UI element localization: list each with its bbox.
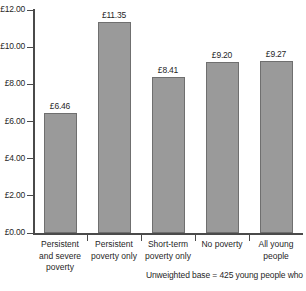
category-label-line: All young [249,239,303,251]
x-axis-line [33,233,303,235]
x-axis-category-label: Persistentpoverty only [87,239,141,262]
category-label-line: and severe [33,251,87,263]
bar-value-label: £6.46 [30,102,90,111]
bar-chart-figure: £0.00£2.00£4.00£6.00£8.00£10.00£12.00 £6… [0,0,306,291]
category-label-line: poverty only [141,251,195,263]
y-axis-tick-label: £12.00 [0,5,25,14]
bar-value-label: £9.27 [246,50,306,59]
category-label-line: Persistent [87,239,141,251]
bar-value-label: £8.41 [138,66,198,75]
footnote: Unweighted base = 425 young people who [146,270,303,280]
y-axis-tick [27,10,33,11]
y-axis-tick-label: £2.00 [0,191,25,200]
bar [44,113,77,233]
y-axis-tick-label: £0.00 [0,228,25,237]
y-axis-tick [27,233,33,234]
y-axis-tick [27,84,33,85]
bar [206,62,239,233]
y-axis-tick-label: £8.00 [0,79,25,88]
bar-value-label: £11.35 [84,11,144,20]
y-axis-tick-label: £6.00 [0,117,25,126]
x-axis-category-label: All youngpeople [249,239,303,262]
y-axis-tick-label: £10.00 [0,42,25,51]
category-label-line: No poverty [195,239,249,251]
category-label-line: poverty only [87,251,141,263]
bar [260,61,293,233]
x-axis-category-label: Short-termpoverty only [141,239,195,262]
y-axis-tick [27,47,33,48]
category-label-line: Short-term [141,239,195,251]
category-label-line: people [249,251,303,263]
bar-value-label: £9.20 [192,51,252,60]
category-label-line: Persistent [33,239,87,251]
bar [152,77,185,233]
y-axis-line [33,9,35,234]
x-axis-category-label: No poverty [195,239,249,251]
y-axis-tick-label: £4.00 [0,154,25,163]
x-axis-category-label: Persistentand severepoverty [33,239,87,274]
y-axis-tick [27,158,33,159]
y-axis-tick [27,195,33,196]
category-label-line: poverty [33,262,87,274]
bar [98,22,131,233]
y-axis-tick [27,121,33,122]
